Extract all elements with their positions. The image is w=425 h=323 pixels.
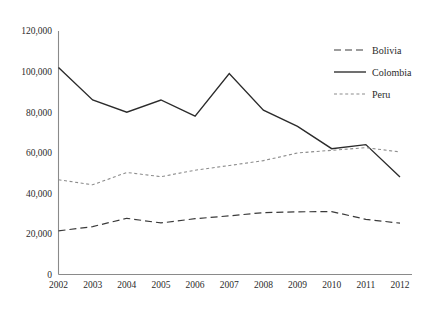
legend-label-colombia: Colombia (372, 67, 412, 78)
y-tick-label: 80,000 (26, 108, 52, 118)
y-tick-label: 40,000 (26, 189, 52, 199)
y-tick-label: 0 (47, 270, 52, 280)
legend-label-bolivia: Bolivia (372, 45, 402, 56)
series-line-colombia (59, 68, 401, 178)
x-tick-label: 2012 (391, 280, 410, 290)
y-tick-label: 20,000 (26, 229, 52, 239)
x-tick-label: 2011 (357, 280, 376, 290)
x-tick-label: 2004 (117, 280, 136, 290)
y-tick-label: 120,000 (21, 26, 52, 36)
y-tick-label: 100,000 (21, 67, 52, 77)
legend-label-peru: Peru (372, 89, 390, 100)
y-axis-group: 020,00040,00060,00080,000100,000120,000 (21, 26, 58, 280)
series-line-bolivia (59, 212, 401, 231)
x-tick-label: 2010 (322, 280, 341, 290)
line-chart-figure: 020,00040,00060,00080,000100,000120,000 … (0, 0, 425, 323)
x-tick-label: 2006 (186, 280, 205, 290)
chart-canvas: 020,00040,00060,00080,000100,000120,000 … (0, 0, 425, 323)
x-tick-label: 2008 (254, 280, 273, 290)
series-line-peru (59, 148, 401, 185)
chart-legend: BoliviaColombiaPeru (334, 45, 412, 100)
x-tick-label: 2005 (151, 280, 170, 290)
y-tick-label: 60,000 (26, 148, 52, 158)
x-axis-group: 2002200320042005200620072008200920102011… (49, 275, 412, 291)
x-axis-tick-labels: 2002200320042005200620072008200920102011… (49, 280, 410, 290)
x-tick-label: 2009 (288, 280, 307, 290)
x-tick-label: 2003 (83, 280, 102, 290)
data-series-group (59, 68, 401, 231)
x-tick-label: 2007 (220, 280, 239, 290)
x-tick-label: 2002 (49, 280, 68, 290)
y-axis-tick-labels: 020,00040,00060,00080,000100,000120,000 (21, 26, 52, 280)
